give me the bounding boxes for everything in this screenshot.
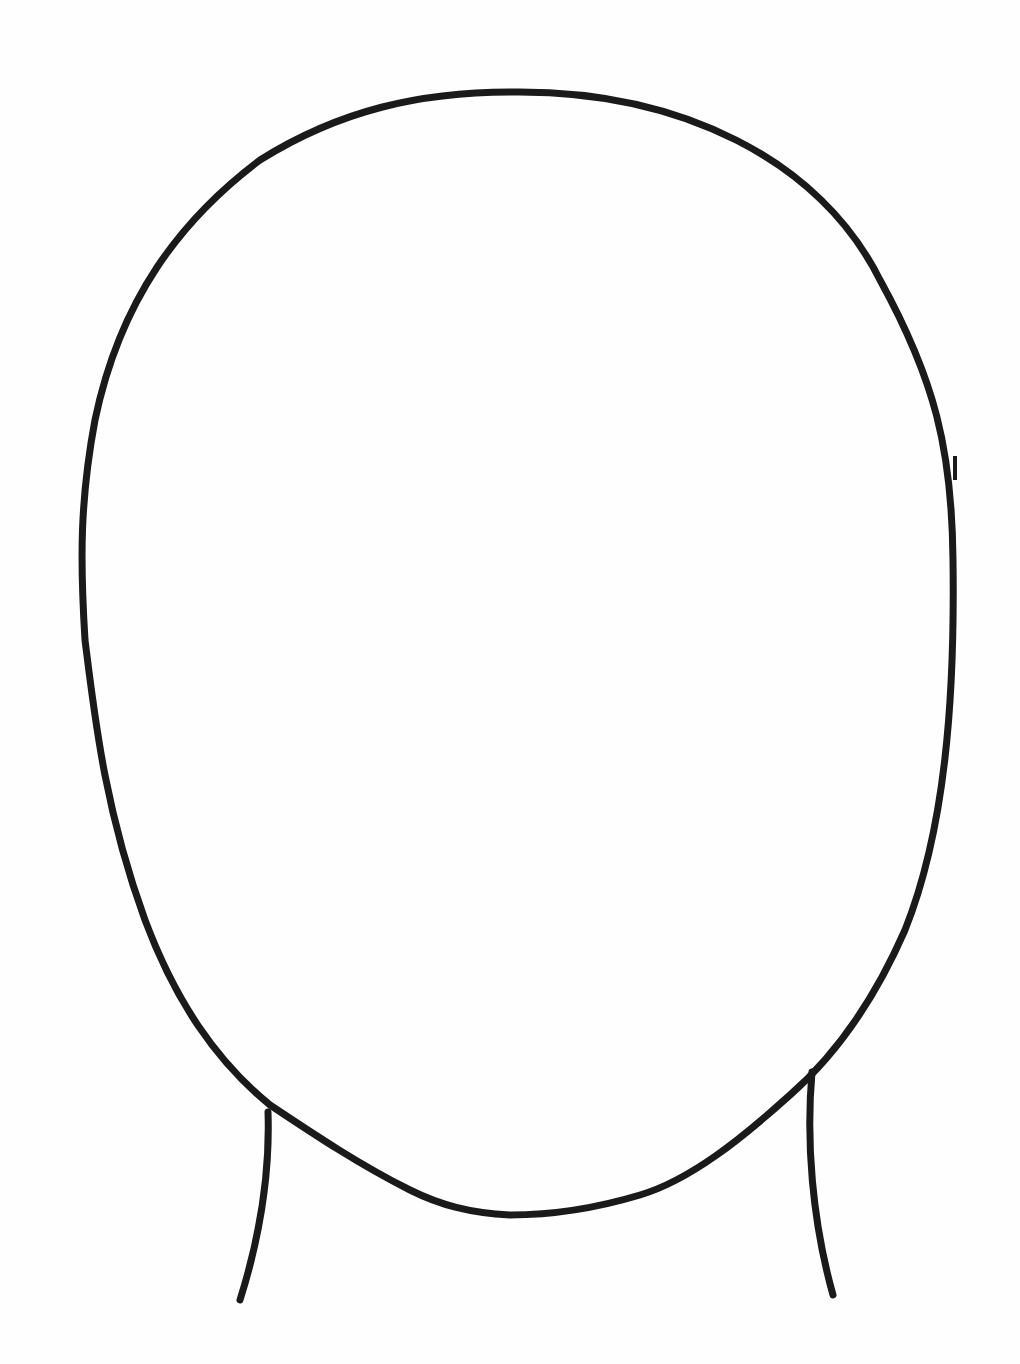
left-neck-line <box>240 1112 268 1300</box>
drawing-canvas: Blank face outline template <box>0 0 1020 1364</box>
head-oval-outline <box>82 92 953 1215</box>
right-neck-line <box>810 1072 833 1295</box>
head-outline-drawing <box>0 0 1020 1364</box>
